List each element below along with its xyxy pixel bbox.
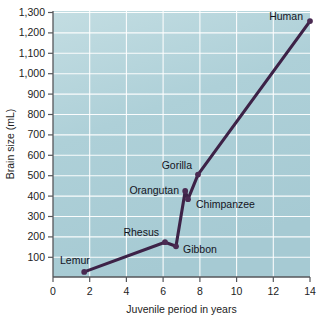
- x-tick-12: 12: [267, 285, 279, 297]
- data-point-gorilla: [195, 172, 201, 178]
- x-tick-4: 4: [123, 285, 129, 297]
- data-point-lemur: [81, 269, 87, 275]
- point-label-human: Human: [269, 10, 303, 22]
- x-tick-10: 10: [231, 285, 243, 297]
- y-tick-900: 900: [27, 88, 45, 100]
- x-tick-14: 14: [304, 285, 316, 297]
- y-tick-300: 300: [27, 210, 45, 222]
- x-axis-tick-labels: 0 2 4 6 8 10 12 14: [50, 285, 316, 297]
- y-axis-title: Brain size (mL): [4, 109, 16, 180]
- y-tick-1100: 1,100: [19, 47, 45, 59]
- y-tick-600: 600: [27, 149, 45, 161]
- x-tick-8: 8: [197, 285, 203, 297]
- y-tick-1200: 1,200: [19, 26, 45, 38]
- point-label-rhesus: Rhesus: [123, 226, 159, 238]
- brain-size-chart-figure: Lemur Rhesus Gibbon Orangutan Chimpanzee…: [0, 0, 319, 319]
- data-point-orangutan: [182, 188, 188, 194]
- y-tick-800: 800: [27, 108, 45, 120]
- y-axis-tick-labels: 1,300 1,200 1,100 1,000 900 800 700 600 …: [19, 6, 45, 263]
- data-point-chimpanzee: [185, 196, 191, 202]
- x-tick-0: 0: [50, 285, 56, 297]
- x-axis-title: Juvenile period in years: [126, 303, 236, 315]
- chart-canvas: Lemur Rhesus Gibbon Orangutan Chimpanzee…: [0, 0, 319, 319]
- data-point-rhesus: [162, 239, 168, 245]
- x-tick-6: 6: [160, 285, 166, 297]
- y-tick-400: 400: [27, 190, 45, 202]
- y-tick-200: 200: [27, 230, 45, 242]
- x-axis-ticks: [53, 277, 310, 282]
- y-tick-100: 100: [27, 251, 45, 263]
- y-axis-ticks: [48, 13, 53, 258]
- y-tick-500: 500: [27, 169, 45, 181]
- point-label-gorilla: Gorilla: [162, 159, 193, 171]
- data-point-human: [307, 18, 313, 24]
- point-label-lemur: Lemur: [60, 254, 90, 266]
- x-tick-2: 2: [87, 285, 93, 297]
- y-tick-700: 700: [27, 128, 45, 140]
- point-label-chimpanzee: Chimpanzee: [196, 198, 255, 210]
- y-tick-1000: 1,000: [19, 67, 45, 79]
- data-point-gibbon: [173, 243, 179, 249]
- point-label-orangutan: Orangutan: [129, 184, 179, 196]
- point-label-gibbon: Gibbon: [183, 243, 217, 255]
- y-tick-1300: 1,300: [19, 6, 45, 18]
